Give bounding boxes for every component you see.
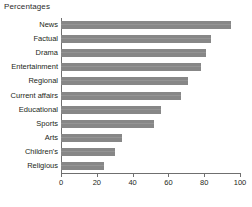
category-label: Current affairs xyxy=(0,92,58,100)
category-label: Entertainment xyxy=(0,63,58,71)
bar xyxy=(61,162,104,170)
x-tick-mark xyxy=(168,174,169,177)
bar xyxy=(61,148,115,156)
category-label: Religious xyxy=(0,162,58,170)
x-tick-label: 60 xyxy=(164,178,172,187)
bar xyxy=(61,77,188,85)
category-label: Sports xyxy=(0,120,58,128)
x-tick-mark xyxy=(240,174,241,177)
x-tick-label: 80 xyxy=(200,178,208,187)
plot-area xyxy=(61,18,240,173)
category-label: Arts xyxy=(0,134,58,142)
chart-title: Percentages xyxy=(4,2,50,11)
bar xyxy=(61,35,211,43)
x-tick-label: 40 xyxy=(128,178,136,187)
bar xyxy=(61,21,231,29)
category-axis-labels: NewsFactualDramaEntertainmentRegionalCur… xyxy=(0,18,58,173)
bar-chart: Percentages NewsFactualDramaEntertainmen… xyxy=(0,0,252,207)
x-axis-ticks: 020406080100 xyxy=(61,174,241,192)
bar xyxy=(61,106,161,114)
bar xyxy=(61,63,201,71)
category-label: News xyxy=(0,21,58,29)
bar xyxy=(61,120,154,128)
category-label: Factual xyxy=(0,35,58,43)
x-tick-label: 0 xyxy=(59,178,63,187)
category-label: Children's xyxy=(0,148,58,156)
x-tick-mark xyxy=(97,174,98,177)
category-label: Educational xyxy=(0,106,58,114)
x-tick-mark xyxy=(133,174,134,177)
bar xyxy=(61,92,181,100)
x-tick-label: 100 xyxy=(234,178,247,187)
x-tick-mark xyxy=(61,174,62,177)
category-label: Regional xyxy=(0,77,58,85)
x-tick-mark xyxy=(204,174,205,177)
category-label: Drama xyxy=(0,49,58,57)
x-tick-label: 20 xyxy=(93,178,101,187)
bar xyxy=(61,134,122,142)
bar xyxy=(61,49,206,57)
